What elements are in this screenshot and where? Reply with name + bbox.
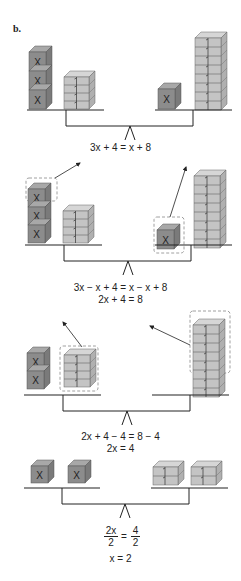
unit-block-stack <box>64 349 96 387</box>
balance-scale <box>24 488 228 518</box>
x-block: X <box>158 83 181 109</box>
equation-scene-3b: 2x = 4 <box>0 443 241 454</box>
x-block: X <box>68 460 91 483</box>
x-block: X <box>31 460 54 483</box>
fraction-left-numerator: 2x <box>104 525 118 537</box>
x-block: X <box>28 219 51 243</box>
svg-text:X: X <box>34 95 41 106</box>
svg-text:X: X <box>36 470 43 481</box>
unit-block-stack <box>195 32 227 110</box>
x-block: X <box>27 365 50 389</box>
fraction-right-numerator: 4 <box>131 525 140 537</box>
svg-text:X: X <box>33 229 40 240</box>
fraction-right: 4 2 <box>131 525 140 548</box>
fraction-equals: = <box>120 531 128 542</box>
equation-result: x = 2 <box>0 553 241 564</box>
unit-block-stack <box>63 205 94 243</box>
fraction-equation: 2x 2 = 4 2 <box>0 525 241 555</box>
balance-scale <box>25 245 232 275</box>
balance-scale <box>24 395 229 425</box>
equation-scene-2b: 2x + 4 = 8 <box>0 294 241 305</box>
svg-text:X: X <box>73 470 80 481</box>
x-block: X <box>29 84 52 109</box>
equation-scene-2a: 3x − x + 4 = x − x + 8 <box>0 282 241 293</box>
svg-text:X: X <box>32 375 39 386</box>
unit-block-stack <box>191 461 222 485</box>
balance-scale <box>27 110 232 140</box>
arrow-icon <box>150 326 190 345</box>
equation-scene-3a: 2x + 4 − 4 = 8 − 4 <box>0 431 241 442</box>
arrow-icon <box>55 163 80 178</box>
arrow-icon <box>63 322 82 347</box>
svg-text:X: X <box>162 235 169 246</box>
arrow-icon <box>170 167 186 217</box>
unit-block-stack <box>193 319 225 397</box>
fraction-left: 2x 2 <box>104 525 118 548</box>
fraction-right-denominator: 2 <box>131 537 140 548</box>
fraction-left-denominator: 2 <box>104 537 118 548</box>
unit-block-stack <box>64 71 95 109</box>
unit-block-stack <box>153 461 184 485</box>
equation-scene-1: 3x + 4 = x + 8 <box>0 142 241 153</box>
svg-text:X: X <box>163 94 170 105</box>
unit-block-stack <box>194 170 226 248</box>
